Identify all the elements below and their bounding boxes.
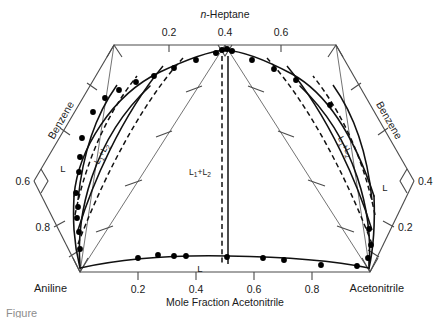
bottom-right-vertex-label: Acetonitrile (350, 282, 404, 294)
left-tick-label-1: 0.8 (35, 221, 50, 233)
region-label-bottom-L: L (197, 263, 202, 274)
upper-right-edge (336, 45, 414, 181)
top-left-corner-notch (107, 45, 122, 57)
bottom-tick-label-1: 0.4 (189, 283, 204, 295)
top-tick-label-1: 0.4 (218, 26, 233, 38)
top-axis-title-rest: -Heptane (206, 8, 249, 20)
bottom-left-vertex-label: Aniline (34, 282, 67, 294)
top-right-corner-notch (328, 45, 343, 57)
top-tick-label-0: 0.2 (162, 26, 177, 38)
region-label-left-L: L (60, 163, 65, 174)
bottom-axis-title: Mole Fraction Acetonitrile (166, 296, 284, 308)
left-axis-title: Benzene (45, 99, 76, 141)
right-tick-label-0: 0.4 (418, 175, 433, 187)
inner-left-binodal (79, 86, 150, 266)
top-axis-title: n-Heptane (200, 8, 249, 20)
region-label-right-L: L (382, 182, 387, 193)
figure-caption-fragment: Figure (6, 307, 37, 318)
data-points (73, 46, 374, 269)
tie-lines-right (267, 58, 375, 244)
bottom-tick-label-2: 0.6 (247, 283, 262, 295)
right-vertex-notch (400, 169, 407, 193)
left-tick-label-0: 0.6 (15, 175, 30, 187)
top-tick-label-2: 0.6 (274, 26, 289, 38)
right-tick-label-1: 0.2 (398, 221, 413, 233)
bottom-tick-label-3: 0.8 (305, 283, 320, 295)
region-label-center-two-phase: L1+L2 (189, 167, 211, 178)
ternary-phase-diagram-figure: n-Heptane 0.2 0.4 0.6 Benzene Benzene 0.… (0, 0, 435, 318)
interior-grid-ticks (96, 86, 354, 232)
tie-lines-center (222, 56, 228, 264)
bottom-tick-label-0: 0.2 (131, 283, 146, 295)
binodal-curves (74, 50, 375, 268)
left-vertex-notch (41, 169, 48, 193)
bottom-axis-ticks (138, 272, 312, 280)
region-label-left-two-phase: L1+L2 (92, 141, 113, 166)
phase-diagram-canvas: n-Heptane 0.2 0.4 0.6 Benzene Benzene 0.… (0, 0, 435, 318)
